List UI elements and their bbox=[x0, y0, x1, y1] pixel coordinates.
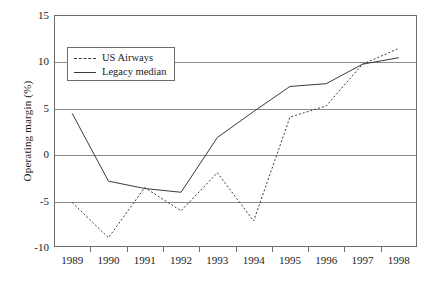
x-axis-tick-label: 1994 bbox=[243, 254, 265, 267]
x-axis-tick-label: 1990 bbox=[97, 254, 119, 267]
y-axis-tick-label: -5 bbox=[10, 195, 54, 207]
x-axis-tick-label: 1989 bbox=[61, 254, 83, 267]
x-axis-tick-label: 1995 bbox=[279, 254, 301, 267]
y-axis-tick-label: 15 bbox=[10, 9, 54, 21]
x-axis-tick-label: 1991 bbox=[134, 254, 156, 267]
legend-label-legacy-median: Legacy median bbox=[102, 65, 166, 79]
x-axis: 1989199019911992199319941995199619971998 bbox=[54, 247, 417, 281]
x-axis-tick-mark bbox=[272, 247, 273, 252]
x-axis-tick-mark bbox=[127, 247, 128, 252]
x-axis-tick-mark bbox=[199, 247, 200, 252]
operating-margin-line-chart: Operating margin (%) 151050-5-10 US Airw… bbox=[0, 0, 436, 281]
x-axis-tick-mark bbox=[308, 247, 309, 252]
legend-item-us-airways: US Airways bbox=[74, 51, 168, 65]
x-axis-tick-label: 1997 bbox=[352, 254, 374, 267]
x-axis-tick-label: 1992 bbox=[170, 254, 192, 267]
x-axis-tick-label: 1993 bbox=[206, 254, 228, 267]
x-axis-tick-label: 1996 bbox=[315, 254, 337, 267]
x-axis-tick-mark bbox=[344, 247, 345, 252]
y-axis-tick-label: -10 bbox=[10, 241, 54, 253]
x-axis-tick-mark bbox=[381, 247, 382, 252]
x-axis-tick-mark bbox=[163, 247, 164, 252]
solid-line-swatch-icon bbox=[74, 68, 96, 76]
y-axis-tick-label: 0 bbox=[10, 148, 54, 160]
y-axis-tick-label: 5 bbox=[10, 102, 54, 114]
x-axis-tick-label: 1998 bbox=[388, 254, 410, 267]
dashed-line-swatch-icon bbox=[74, 54, 96, 62]
y-axis-tick-labels: 151050-5-10 bbox=[0, 15, 54, 247]
legend-item-legacy-median: Legacy median bbox=[74, 65, 168, 79]
legend-label-us-airways: US Airways bbox=[102, 51, 153, 65]
chart-legend: US Airways Legacy median bbox=[67, 47, 175, 81]
x-axis-tick-mark bbox=[90, 247, 91, 252]
x-axis-tick-mark bbox=[236, 247, 237, 252]
y-axis-tick-label: 10 bbox=[10, 55, 54, 67]
